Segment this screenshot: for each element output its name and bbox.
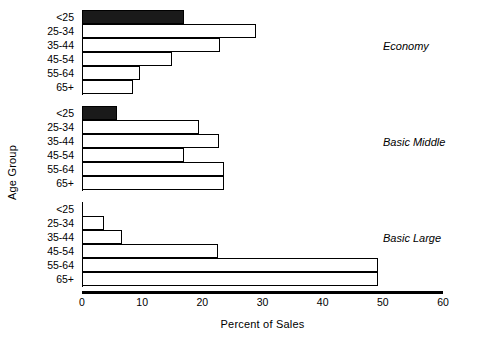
bar-row <box>82 272 443 286</box>
panel-title-economy: Economy <box>383 40 483 52</box>
bar <box>82 10 184 24</box>
bar-row <box>82 80 443 94</box>
bar <box>82 258 378 272</box>
bar <box>82 66 140 80</box>
x-axis-line <box>82 291 443 294</box>
plot-area-basic-large <box>82 202 443 287</box>
category-label: 25-34 <box>14 120 78 134</box>
chart-panel-basic-large: <25 25-34 35-44 45-54 55-64 65+ Basic La… <box>0 202 483 287</box>
category-label: 65+ <box>14 80 78 94</box>
bar-row <box>82 106 443 120</box>
bar-row <box>82 66 443 80</box>
plot-area-basic-middle <box>82 106 443 191</box>
category-labels-basic-middle: <25 25-34 35-44 45-54 55-64 65+ <box>14 106 78 191</box>
category-labels-basic-large: <25 25-34 35-44 45-54 55-64 65+ <box>14 202 78 287</box>
bar <box>82 244 218 258</box>
bar <box>82 148 184 162</box>
x-tick-label: 0 <box>62 296 102 308</box>
bar <box>82 24 256 38</box>
panel-title-basic-middle: Basic Middle <box>383 136 483 148</box>
x-axis-tick-labels: 0102030405060 <box>0 296 483 312</box>
bar <box>82 176 224 190</box>
bar-row <box>82 10 443 24</box>
bar-chart: Age Group <25 25-34 35-44 45-54 55-64 65… <box>0 0 483 345</box>
category-label: 45-54 <box>14 244 78 258</box>
bar <box>82 134 219 148</box>
x-tick-label: 10 <box>122 296 162 308</box>
bar <box>82 272 378 286</box>
bar <box>82 106 117 120</box>
bar-row <box>82 216 443 230</box>
category-label: 55-64 <box>14 258 78 272</box>
bar <box>82 52 172 66</box>
x-tick-label: 40 <box>303 296 343 308</box>
category-label: <25 <box>14 10 78 24</box>
panel-title-basic-large: Basic Large <box>383 232 483 244</box>
bar-row <box>82 176 443 190</box>
bar-row <box>82 162 443 176</box>
category-label: 45-54 <box>14 148 78 162</box>
bar <box>82 162 224 176</box>
bar-row <box>82 244 443 258</box>
category-label: 25-34 <box>14 24 78 38</box>
bar-row <box>82 148 443 162</box>
category-label: 35-44 <box>14 134 78 148</box>
bar <box>82 230 122 244</box>
category-label: <25 <box>14 106 78 120</box>
x-tick-label: 60 <box>423 296 463 308</box>
x-tick-label: 50 <box>363 296 403 308</box>
category-label: 65+ <box>14 272 78 286</box>
category-label: 35-44 <box>14 38 78 52</box>
x-tick-label: 20 <box>182 296 222 308</box>
category-label: 55-64 <box>14 66 78 80</box>
bar <box>82 120 199 134</box>
chart-panel-economy: <25 25-34 35-44 45-54 55-64 65+ Economy <box>0 10 483 95</box>
category-label: 35-44 <box>14 230 78 244</box>
bar-row <box>82 120 443 134</box>
x-tick-label: 30 <box>243 296 283 308</box>
category-label: 45-54 <box>14 52 78 66</box>
category-label: 65+ <box>14 176 78 190</box>
plot-area-economy <box>82 10 443 95</box>
x-axis-title: Percent of Sales <box>82 318 443 330</box>
category-label: 55-64 <box>14 162 78 176</box>
category-label: <25 <box>14 202 78 216</box>
bar <box>82 80 133 94</box>
bar <box>82 38 220 52</box>
bar-row <box>82 258 443 272</box>
category-labels-economy: <25 25-34 35-44 45-54 55-64 65+ <box>14 10 78 95</box>
bar <box>82 216 104 230</box>
bar-row <box>82 24 443 38</box>
bar-row <box>82 202 443 216</box>
bar-row <box>82 52 443 66</box>
chart-panel-basic-middle: <25 25-34 35-44 45-54 55-64 65+ Basic Mi… <box>0 106 483 191</box>
category-label: 25-34 <box>14 216 78 230</box>
